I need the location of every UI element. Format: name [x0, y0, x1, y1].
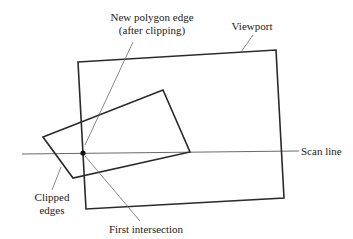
clipped-edges-label-line2: edges: [39, 204, 64, 216]
first-intersection-dot: [80, 150, 85, 155]
new-edge-label-line1: New polygon edge: [110, 11, 193, 23]
viewport-leader: [241, 35, 253, 52]
diagram-svg: New polygon edge (after clipping) Viewpo…: [0, 0, 353, 239]
scan-line: [22, 151, 299, 154]
new-edge-label-line2: (after clipping): [119, 24, 186, 37]
scan-line-label: Scan line: [301, 145, 342, 157]
polygon-shape: [43, 90, 190, 178]
clipping-diagram: New polygon edge (after clipping) Viewpo…: [0, 0, 353, 239]
clipped-edges-label-line1: Clipped: [35, 191, 70, 203]
clipped-edges-leader: [52, 167, 61, 190]
new-edge-leader: [85, 42, 133, 145]
viewport-label: Viewport: [232, 20, 273, 32]
first-intersection-label: First intersection: [109, 223, 184, 235]
